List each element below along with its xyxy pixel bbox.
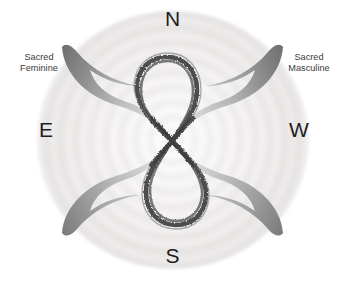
cardinal-label-north: N bbox=[0, 6, 345, 32]
crescent-top-right bbox=[173, 45, 283, 140]
sacred-feminine-label: Sacred Feminine bbox=[6, 52, 72, 74]
crescent-bottom-left bbox=[62, 141, 172, 236]
diagram-canvas: N S E W Sacred Feminine Sacred Masculine bbox=[0, 0, 345, 281]
cardinal-label-west: W bbox=[286, 117, 312, 143]
cardinal-label-south: S bbox=[0, 243, 345, 269]
infinity-symbol-group bbox=[134, 53, 209, 229]
cardinal-label-east: E bbox=[34, 117, 58, 143]
sacred-masculine-label: Sacred Masculine bbox=[276, 52, 342, 74]
